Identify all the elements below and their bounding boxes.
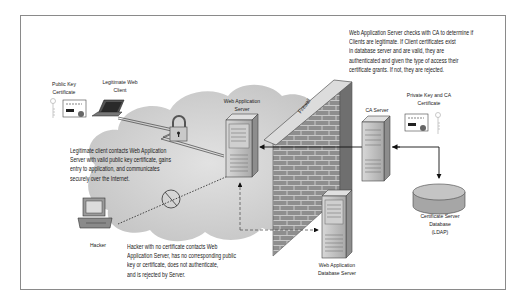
ca-server-icon [362, 116, 390, 181]
certificate-database-icon [413, 184, 465, 214]
private-key-icon [436, 113, 441, 135]
ca-db-link [392, 147, 439, 178]
key-icon [51, 99, 56, 119]
public-key-certificate-label: Public Key Certificate [44, 80, 83, 96]
certificate-server-database-label: Certificate Server Database (LDAP) [415, 212, 464, 237]
hacker-note: Hacker with no certificate contacts Web … [127, 242, 236, 279]
ca-check-note: Web Application Server checks with CA to… [349, 28, 473, 74]
web-application-server-label: Web Application Server [217, 97, 266, 113]
legit-client-note: Legitimate client contacts Web Applicati… [70, 146, 171, 183]
private-key-ca-certificate-label: Private Key and CA Certificate [401, 91, 457, 107]
laptop-icon [92, 100, 124, 116]
web-application-server-icon [226, 114, 258, 177]
ca-certificate-icon [405, 114, 428, 131]
web-application-database-server-label: Web Application Database Server [311, 261, 363, 277]
public-key-certificate-icon [63, 100, 86, 117]
ca-server-label: CA Server [359, 106, 395, 114]
web-application-database-server-icon [322, 190, 352, 258]
legitimate-web-client-label: Legitimate Web Client [95, 78, 144, 94]
hacker-label: Hacker [87, 241, 110, 249]
